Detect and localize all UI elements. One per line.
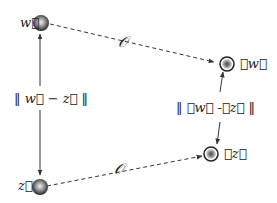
label-Ow: 𝒪w⃗ bbox=[240, 57, 267, 70]
bottom-mapping-edge bbox=[47, 156, 202, 186]
label-top-operator: 𝒪 bbox=[118, 35, 127, 50]
label-left-distance: ‖ w⃗ − z⃗ ‖ bbox=[14, 92, 88, 105]
node-Oz bbox=[204, 147, 218, 161]
right-distance-arrow-down bbox=[217, 122, 220, 144]
node-Ow bbox=[220, 57, 234, 71]
label-z: z⃗ bbox=[18, 179, 33, 192]
right-distance-arrow-up bbox=[220, 72, 223, 92]
label-right-distance: ‖ 𝒪w⃗ -𝒪z⃗ ‖ bbox=[176, 101, 255, 114]
label-bottom-operator: 𝒪 bbox=[114, 162, 123, 177]
top-mapping-edge bbox=[50, 24, 214, 62]
node-z bbox=[32, 179, 48, 195]
label-w: w⃗ bbox=[20, 16, 39, 29]
label-Oz: 𝒪z⃗ bbox=[224, 147, 246, 160]
